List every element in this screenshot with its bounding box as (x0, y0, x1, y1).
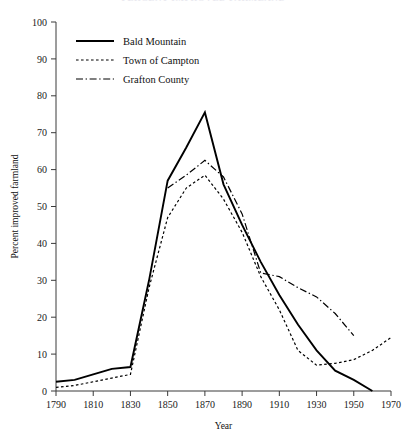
y-tick-label: 10 (37, 349, 47, 360)
y-axis-title: Percent improved farmland (10, 154, 20, 258)
series-group (56, 112, 391, 391)
x-tick-label: 1910 (269, 399, 289, 410)
series-line-bald-mountain (56, 112, 372, 391)
axes-group: 0102030405060708090100179018101830185018… (32, 17, 401, 410)
y-tick-label: 70 (37, 127, 47, 138)
x-tick-label: 1870 (195, 399, 215, 410)
line-chart-plot: 0102030405060708090100179018101830185018… (0, 0, 407, 448)
x-tick-label: 1950 (344, 399, 364, 410)
y-tick-label: 30 (37, 275, 47, 286)
series-line-town-of-campton (56, 175, 391, 387)
x-tick-label: 1850 (158, 399, 178, 410)
y-tick-label: 20 (37, 312, 47, 323)
y-tick-label: 50 (37, 201, 47, 212)
x-tick-label: 1890 (232, 399, 252, 410)
legend-group: Bald MountainTown of CamptonGrafton Coun… (76, 36, 200, 85)
x-axis-title: Year (215, 421, 233, 431)
chart-figure: PERCENT IMPROVED FARMLAND 01020304050607… (0, 0, 407, 448)
y-tick-label: 60 (37, 164, 47, 175)
legend-label-town-of-campton: Town of Campton (123, 55, 200, 66)
y-tick-label: 100 (32, 17, 47, 28)
y-tick-label: 90 (37, 54, 47, 65)
legend-label-grafton-county: Grafton County (123, 74, 190, 85)
x-tick-label: 1930 (307, 399, 327, 410)
legend-label-bald-mountain: Bald Mountain (123, 36, 187, 47)
y-tick-label: 80 (37, 90, 47, 101)
x-tick-label: 1790 (46, 399, 66, 410)
series-line-grafton-county (168, 160, 354, 335)
x-tick-label: 1830 (120, 399, 140, 410)
x-tick-label: 1970 (381, 399, 401, 410)
y-tick-label: 0 (42, 386, 47, 397)
x-tick-label: 1810 (83, 399, 103, 410)
y-tick-label: 40 (37, 238, 47, 249)
